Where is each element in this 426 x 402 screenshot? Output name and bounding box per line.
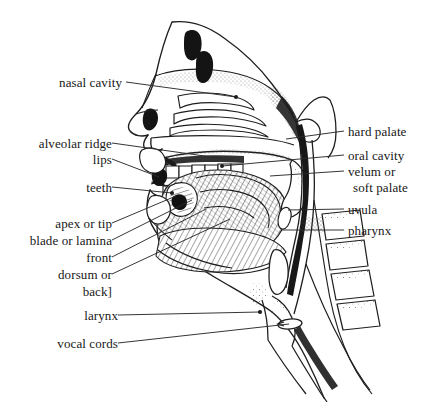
trachea — [268, 340, 327, 402]
label-front: front — [0, 250, 112, 265]
leader-vocal-cords — [118, 324, 289, 343]
dot-oral-cavity — [220, 164, 224, 168]
leader-larynx — [118, 312, 260, 315]
dot-teeth — [170, 191, 174, 195]
label-alveolar-ridge: alveolar ridge — [0, 136, 112, 151]
label-velum-or: velum or — [348, 164, 395, 179]
epiglottis — [269, 250, 288, 295]
label-teeth: teeth — [0, 180, 112, 195]
label-oral-cavity: oral cavity — [348, 148, 404, 163]
posterior-dark-mass — [276, 96, 300, 144]
neck-stipple-2 — [274, 300, 296, 322]
label-uvula: uvula — [348, 202, 377, 217]
label-pharynx: pharynx — [348, 223, 391, 238]
label-larynx: larynx — [0, 308, 118, 323]
dot-larynx — [258, 310, 262, 314]
label-back-bracket: back] — [0, 284, 112, 299]
label-vocal-cords: vocal cords — [0, 336, 118, 351]
figure-canvas: nasal cavity alveolar ridge lips teeth a… — [0, 0, 426, 402]
label-hard-palate: hard palate — [348, 124, 406, 139]
label-apex-or-tip: apex or tip — [0, 216, 112, 231]
nasal-turbinates — [170, 93, 268, 137]
neck-stipple — [249, 283, 267, 306]
label-blade-or-lamina: blade or lamina — [0, 233, 112, 248]
label-dorsum-or: dorsum or — [0, 267, 112, 282]
label-lips: lips — [0, 152, 112, 167]
dot-nasal-cavity — [234, 95, 238, 99]
label-soft-palate: soft palate — [353, 180, 408, 195]
label-nasal-cavity: nasal cavity — [10, 75, 122, 90]
maxilla — [140, 148, 166, 173]
